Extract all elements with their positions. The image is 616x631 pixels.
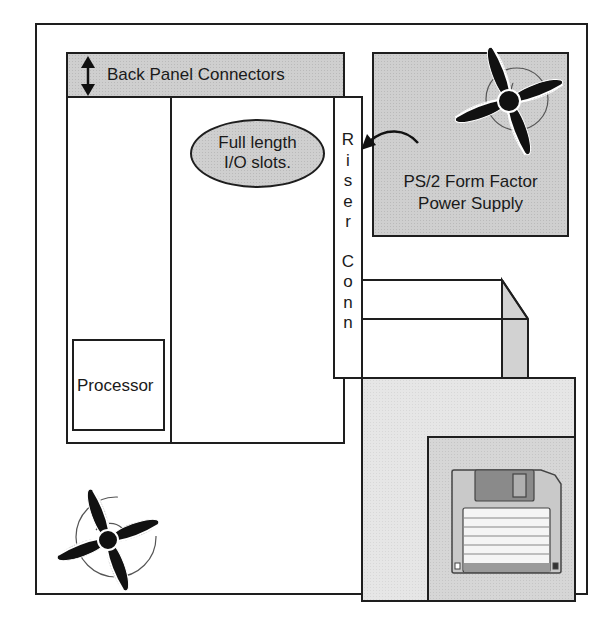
floppy-disk-icon xyxy=(452,470,561,573)
drive-cage xyxy=(362,280,528,378)
double-arrow-icon xyxy=(81,56,95,96)
diagram-graphics xyxy=(0,0,616,631)
case-fan-icon xyxy=(39,471,177,609)
curved-arrow-icon xyxy=(361,131,418,150)
psu-fan-icon xyxy=(436,28,582,174)
